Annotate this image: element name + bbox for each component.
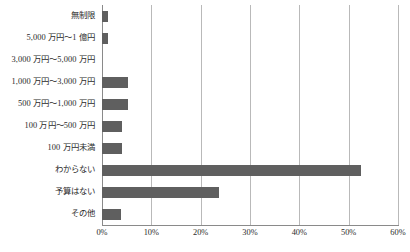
bar-row bbox=[102, 71, 398, 93]
bar-row bbox=[102, 159, 398, 181]
x-tick-label: 20% bbox=[193, 229, 208, 237]
bar bbox=[102, 209, 121, 220]
y-axis-label: 100 万円未満 bbox=[0, 137, 99, 159]
bar bbox=[102, 77, 128, 88]
y-axis-label: その他 bbox=[0, 203, 99, 225]
bar bbox=[102, 33, 108, 44]
x-tick-label: 10% bbox=[144, 229, 159, 237]
x-axis-tick-labels: 0%10%20%30%40%50%60% bbox=[102, 229, 398, 245]
bar-row bbox=[102, 115, 398, 137]
bar bbox=[102, 99, 128, 110]
x-tick-label: 60% bbox=[390, 229, 405, 237]
x-axis-baseline bbox=[102, 225, 399, 226]
y-axis-label: 500 万円～1,000 万円 bbox=[0, 93, 99, 115]
y-axis-label: 1,000 万円～3,000 万円 bbox=[0, 71, 99, 93]
x-tick-label: 40% bbox=[292, 229, 307, 237]
y-axis-label: 予算はない bbox=[0, 181, 99, 203]
y-axis-label: 無制限 bbox=[0, 5, 99, 27]
plot-area bbox=[102, 5, 398, 225]
bar bbox=[102, 165, 361, 176]
gridline bbox=[398, 5, 399, 225]
bar bbox=[102, 121, 122, 132]
x-tick-label: 30% bbox=[242, 229, 257, 237]
bar-row bbox=[102, 5, 398, 27]
x-tick-label: 50% bbox=[341, 229, 356, 237]
y-axis-category-labels: 無制限 5,000 万円～1 億円 3,000 万円～5,000 万円 1,00… bbox=[0, 5, 99, 225]
bar bbox=[102, 143, 122, 154]
x-tick-label: 0% bbox=[96, 229, 107, 237]
bar-row bbox=[102, 49, 398, 71]
bar bbox=[102, 11, 108, 22]
bar bbox=[102, 187, 219, 198]
bar-row bbox=[102, 181, 398, 203]
bar-row bbox=[102, 203, 398, 225]
y-axis-label: 5,000 万円～1 億円 bbox=[0, 27, 99, 49]
horizontal-bar-chart: 無制限 5,000 万円～1 億円 3,000 万円～5,000 万円 1,00… bbox=[0, 0, 410, 252]
y-axis-label: 3,000 万円～5,000 万円 bbox=[0, 49, 99, 71]
bar-row bbox=[102, 137, 398, 159]
bars-layer bbox=[102, 5, 398, 225]
y-axis-label: わからない bbox=[0, 159, 99, 181]
bar-row bbox=[102, 27, 398, 49]
bar-row bbox=[102, 93, 398, 115]
y-axis-label: 100 万円～500 万円 bbox=[0, 115, 99, 137]
